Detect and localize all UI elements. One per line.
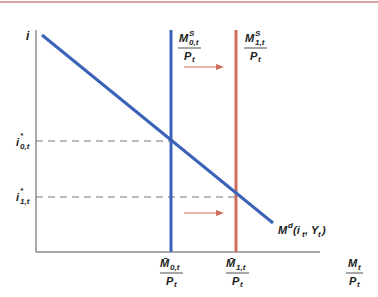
svg-text:1,t: 1,t [20, 197, 30, 206]
svg-text:*: * [20, 186, 24, 195]
money-market-diagram: i i * 0,t i * 1,t M S 0,t P t M S 1,t [0, 0, 378, 297]
svg-text:(i: (i [293, 224, 301, 236]
shift-arrow-top [184, 64, 224, 70]
svg-text:t: t [358, 263, 361, 272]
x-axis-label: M t P t [346, 257, 363, 289]
initial-supply-label: M S 0,t P t [178, 29, 201, 64]
svg-text:t: t [357, 280, 360, 289]
svg-text:P: P [250, 50, 258, 62]
x-tick-m1: M̄ 1,t P t [226, 257, 249, 289]
svg-text:1,t: 1,t [255, 38, 265, 47]
svg-text:*: * [20, 131, 24, 140]
svg-text:t: t [174, 280, 177, 289]
i0-label: i * 0,t [16, 131, 30, 151]
svg-text:M̄: M̄ [160, 257, 170, 269]
i1-label: i * 1,t [16, 186, 30, 206]
svg-text:M: M [348, 257, 358, 269]
money-demand-line [42, 35, 273, 223]
shift-arrow-bottom [184, 210, 224, 216]
svg-text:1,t: 1,t [236, 263, 246, 272]
money-demand-label: M d (i t , Y t ) [278, 221, 326, 239]
svg-text:M: M [245, 32, 255, 44]
svg-text:0,t: 0,t [189, 38, 199, 47]
svg-text:0,t: 0,t [20, 142, 30, 151]
svg-text:M̄: M̄ [226, 257, 236, 269]
svg-text:P: P [184, 50, 192, 62]
svg-text:M: M [179, 32, 189, 44]
svg-text:P: P [166, 275, 174, 287]
shifted-supply-label: M S 1,t P t [244, 29, 267, 64]
y-axis-label: i [26, 29, 30, 43]
svg-text:t: t [318, 230, 321, 239]
svg-text:P: P [232, 275, 240, 287]
x-tick-m0: M̄ 0,t P t [160, 257, 183, 289]
svg-text:P: P [349, 275, 357, 287]
svg-text:t: t [258, 55, 261, 64]
svg-text:t: t [240, 280, 243, 289]
svg-text:S: S [255, 29, 261, 38]
svg-text:0,t: 0,t [170, 263, 180, 272]
svg-text:M: M [278, 224, 288, 236]
svg-text:): ) [321, 224, 326, 236]
svg-text:t: t [192, 55, 195, 64]
svg-text:S: S [189, 29, 195, 38]
